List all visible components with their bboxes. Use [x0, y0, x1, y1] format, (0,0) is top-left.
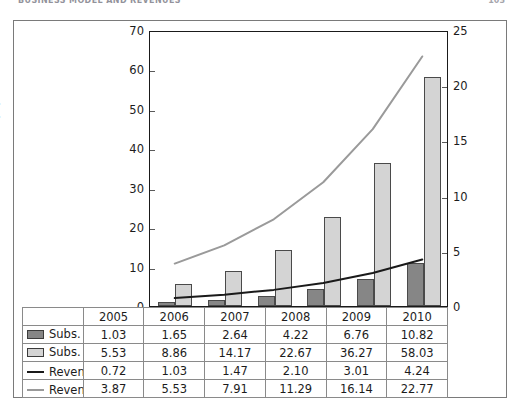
table-cell: 7.91 — [205, 380, 266, 398]
right-tick-label: 15 — [453, 134, 483, 148]
table-cell: 16.14 — [326, 380, 387, 398]
bar-subs-in-japan-m-2007 — [258, 296, 275, 306]
table-cell: 1.47 — [205, 362, 266, 380]
table-row-header: Subs. in Japan (M) — [23, 326, 84, 344]
legend-label: Subs. in China (M) — [49, 345, 83, 359]
left-tick-label: 20 — [114, 221, 144, 235]
legend-swatch-gray-line-icon — [27, 389, 44, 391]
table-cell: 4.22 — [265, 326, 326, 344]
legend-swatch-dark-line-icon — [27, 371, 44, 373]
legend-label: Subs. in Japan (M) — [49, 327, 83, 341]
page-number: 103 — [488, 0, 505, 6]
right-tick-label: 0 — [453, 300, 483, 314]
bar-subs-in-china-m-2008 — [324, 217, 341, 306]
right-tick-label: 10 — [453, 190, 483, 204]
legend-label: Revenue Japan ($B) — [49, 365, 83, 379]
table-cell: 6.76 — [326, 326, 387, 344]
bar-subs-in-china-m-2005 — [175, 284, 192, 306]
table-row: Subs. in China (M)5.538.8614.1722.6736.2… — [23, 344, 448, 362]
right-tick-mark — [442, 198, 447, 199]
left-tick-label: 60 — [114, 63, 144, 77]
left-tick-mark — [150, 150, 155, 151]
right-tick-label: 20 — [453, 79, 483, 93]
plot-inner — [150, 32, 447, 306]
left-tick-mark — [150, 269, 155, 270]
bar-subs-in-china-m-2007 — [275, 250, 292, 306]
data-table-body: 200520062007200820092010Subs. in Japan (… — [23, 308, 448, 398]
table-cell: 3.87 — [83, 380, 144, 398]
left-tick-label: 70 — [114, 24, 144, 38]
right-tick-mark — [442, 87, 447, 88]
legend-label: Revenue China ($B) — [49, 383, 83, 397]
table-row: Revenue China ($B)3.875.537.9111.2916.14… — [23, 380, 448, 398]
table-cell: 22.77 — [387, 380, 448, 398]
bar-subs-in-japan-m-2005 — [158, 302, 175, 306]
left-tick-label: 50 — [114, 103, 144, 117]
table-row-header: Subs. in China (M) — [23, 344, 84, 362]
left-axis-title: Subscribers (M) — [0, 101, 2, 191]
legend-entry: Revenue China ($B) — [27, 383, 83, 397]
left-tick-mark — [150, 190, 155, 191]
table-cell: 22.67 — [265, 344, 326, 362]
table-col-header-2005: 2005 — [83, 308, 144, 326]
legend-entry: Subs. in China (M) — [27, 345, 83, 359]
table-cell: 1.65 — [144, 326, 205, 344]
table-col-header-2006: 2006 — [144, 308, 205, 326]
table-cell: 8.86 — [144, 344, 205, 362]
legend-swatch-dark-box-icon — [27, 330, 44, 339]
left-tick-mark — [150, 71, 155, 72]
left-tick-mark — [150, 229, 155, 230]
table-row: Subs. in Japan (M)1.031.652.644.226.7610… — [23, 326, 448, 344]
data-table: 200520062007200820092010Subs. in Japan (… — [22, 307, 448, 398]
table-cell: 0.72 — [83, 362, 144, 380]
table-cell: 36.27 — [326, 344, 387, 362]
bar-subs-in-china-m-2009 — [374, 163, 391, 306]
left-tick-mark — [150, 111, 155, 112]
bar-subs-in-japan-m-2008 — [307, 289, 324, 306]
table-cell: 1.03 — [83, 326, 144, 344]
table-col-header-2007: 2007 — [205, 308, 266, 326]
bar-subs-in-japan-m-2010 — [407, 263, 424, 306]
left-tick-label: 40 — [114, 142, 144, 156]
bar-subs-in-japan-m-2006 — [208, 300, 225, 307]
table-cell: 5.53 — [144, 380, 205, 398]
table-row-header: Revenue China ($B) — [23, 380, 84, 398]
table-cell: 14.17 — [205, 344, 266, 362]
table-cell: 58.03 — [387, 344, 448, 362]
table-col-header-2008: 2008 — [265, 308, 326, 326]
chart-figure: Subscribers (M) Revenue ($B) 01020304050… — [13, 20, 507, 398]
right-tick-label: 25 — [453, 24, 483, 38]
table-cell: 2.10 — [265, 362, 326, 380]
table-col-header-2009: 2009 — [326, 308, 387, 326]
right-tick-mark — [442, 142, 447, 143]
legend-entry: Revenue Japan ($B) — [27, 365, 83, 379]
table-cell: 10.82 — [387, 326, 448, 344]
bar-subs-in-china-m-2010 — [424, 77, 441, 306]
table-cell: 11.29 — [265, 380, 326, 398]
bar-subs-in-china-m-2006 — [225, 271, 242, 306]
bar-subs-in-japan-m-2009 — [357, 279, 374, 306]
table-cell: 2.64 — [205, 326, 266, 344]
table-header-row: 200520062007200820092010 — [23, 308, 448, 326]
page-header-text: BUSINESS MODEL AND REVENUES — [18, 0, 488, 6]
table-cell: 4.24 — [387, 362, 448, 380]
table-cell: 1.03 — [144, 362, 205, 380]
legend-swatch-light-box-icon — [27, 348, 44, 357]
right-tick-mark — [442, 253, 447, 254]
left-tick-label: 30 — [114, 182, 144, 196]
left-tick-label: 10 — [114, 261, 144, 275]
table-row: Revenue Japan ($B)0.721.031.472.103.014.… — [23, 362, 448, 380]
table-cell: 5.53 — [83, 344, 144, 362]
table-row-header: Revenue Japan ($B) — [23, 362, 84, 380]
table-cell: 3.01 — [326, 362, 387, 380]
right-tick-label: 5 — [453, 245, 483, 259]
plot-area: 0102030405060700510152025 — [149, 31, 448, 307]
table-corner-cell — [23, 308, 84, 326]
table-col-header-2010: 2010 — [387, 308, 448, 326]
legend-entry: Subs. in Japan (M) — [27, 327, 83, 341]
